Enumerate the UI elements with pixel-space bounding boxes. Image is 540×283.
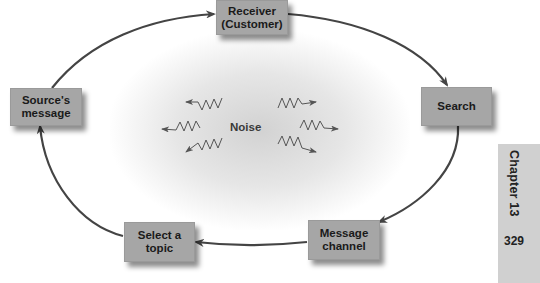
arrow-topic-to-source bbox=[40, 126, 123, 236]
arrow-receiver-to-search bbox=[288, 14, 447, 85]
cycle-arrows bbox=[0, 0, 540, 283]
page-number: 329 bbox=[504, 234, 524, 248]
node-source-message-label: Source's message bbox=[21, 94, 70, 120]
node-select-topic: Select a topic bbox=[124, 222, 195, 262]
chapter-label: Chapter 13 bbox=[507, 150, 521, 217]
node-message-channel: Message channel bbox=[308, 220, 380, 260]
node-search: Search bbox=[421, 87, 492, 126]
node-search-label: Search bbox=[437, 100, 475, 113]
node-source-message: Source's message bbox=[10, 88, 82, 126]
node-receiver-label: Receiver (Customer) bbox=[221, 5, 282, 31]
arrow-channel-to-topic bbox=[196, 242, 307, 245]
node-receiver: Receiver (Customer) bbox=[216, 0, 288, 35]
node-select-topic-label: Select a topic bbox=[138, 229, 181, 255]
arrow-source-to-receiver bbox=[52, 14, 214, 88]
node-message-channel-label: Message channel bbox=[320, 227, 369, 253]
arrow-search-to-channel bbox=[379, 126, 458, 222]
noise-label: Noise bbox=[230, 121, 261, 133]
